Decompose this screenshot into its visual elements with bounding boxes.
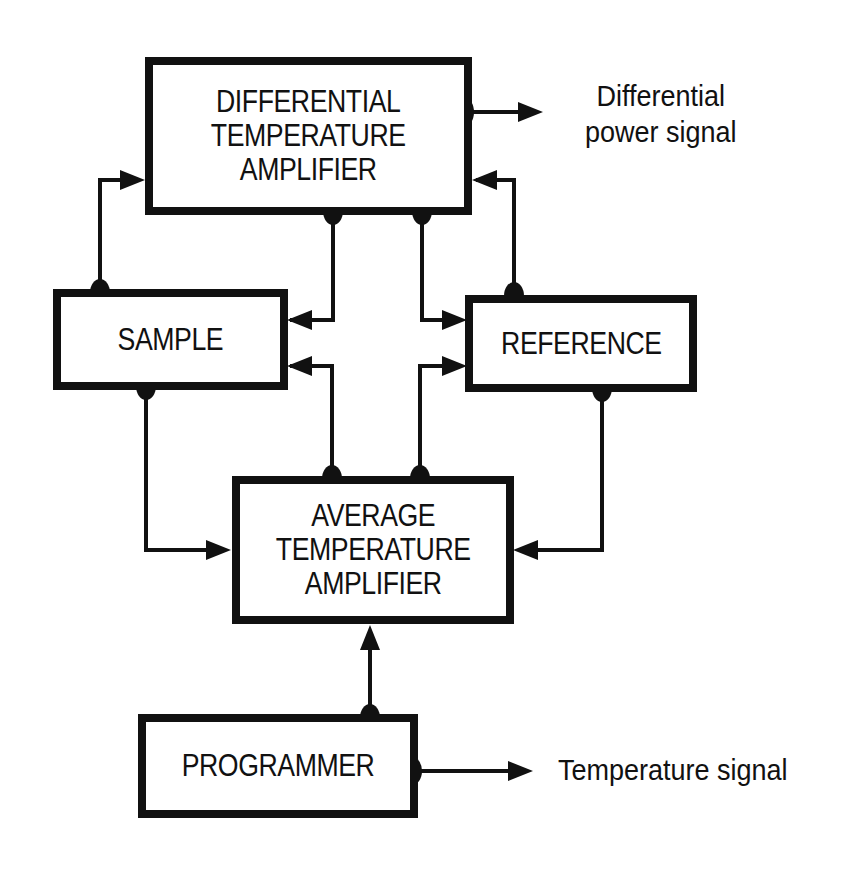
arrowhead-icon xyxy=(287,356,312,376)
arrowhead-icon xyxy=(513,540,538,560)
block-label: REFERENCE xyxy=(501,327,662,361)
arrowhead-icon xyxy=(508,761,533,781)
wire-avg-amp-to-reference xyxy=(420,366,462,476)
wire-sample-to-diff-amp xyxy=(100,180,140,293)
differential-power-signal-label: Differential power signal xyxy=(585,78,737,150)
arrowhead-icon xyxy=(360,625,380,650)
block-label: AVERAGE TEMPERATURE AMPLIFIER xyxy=(276,499,471,601)
programmer-block: PROGRAMMER xyxy=(138,714,418,818)
arrowhead-icon xyxy=(518,102,543,122)
arrowhead-icon xyxy=(120,170,145,190)
arrowhead-icon xyxy=(442,310,467,330)
block-label: DIFFERENTIAL TEMPERATURE AMPLIFIER xyxy=(211,85,406,187)
average-temperature-amplifier-block: AVERAGE TEMPERATURE AMPLIFIER xyxy=(232,476,514,624)
differential-temperature-amplifier-block: DIFFERENTIAL TEMPERATURE AMPLIFIER xyxy=(145,57,472,215)
wire-sample-to-avg-amp xyxy=(146,388,226,550)
reference-block: REFERENCE xyxy=(465,295,697,392)
block-label: SAMPLE xyxy=(118,323,224,357)
arrowhead-icon xyxy=(206,540,231,560)
wire-avg-amp-to-sample xyxy=(290,366,332,476)
arrowhead-icon xyxy=(287,310,312,330)
arrowhead-icon xyxy=(472,170,497,190)
wire-reference-to-diff-amp xyxy=(476,180,514,296)
wire-diff-amp-to-reference xyxy=(422,210,462,320)
arrowhead-icon xyxy=(442,356,467,376)
temperature-signal-label: Temperature signal xyxy=(558,752,788,788)
wire-diff-amp-to-sample xyxy=(290,210,333,320)
block-label: PROGRAMMER xyxy=(182,749,375,783)
sample-block: SAMPLE xyxy=(53,289,288,390)
wire-reference-to-avg-amp xyxy=(518,390,602,550)
